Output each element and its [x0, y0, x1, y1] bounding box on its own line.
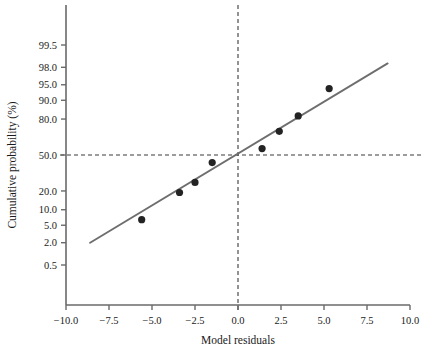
y-tick-label-7: 10.0: [39, 204, 57, 215]
y-axis-title: Cumulative probability (%): [6, 101, 19, 228]
x-tick-label-6: 5.0: [317, 315, 330, 326]
x-tick-label-2: −5.0: [142, 315, 161, 326]
data-point-5: [276, 128, 283, 135]
x-tick-label-8: 10.0: [401, 315, 419, 326]
data-point-4: [258, 145, 265, 152]
x-tick-label-4: 0.0: [231, 315, 244, 326]
x-tick-label-3: −2.5: [185, 315, 204, 326]
y-tick-label-8: 5.0: [44, 220, 57, 231]
chart-background: [0, 0, 426, 351]
y-tick-label-9: 2.0: [44, 237, 57, 248]
y-tick-label-3: 90.0: [39, 95, 57, 106]
data-point-2: [191, 179, 198, 186]
y-tick-label-10: 0.5: [44, 260, 57, 271]
x-axis-title: Model residuals: [201, 334, 275, 346]
chart-figure: 99.598.095.090.080.050.020.010.05.02.00.…: [0, 0, 426, 351]
y-tick-label-2: 95.0: [39, 79, 57, 90]
x-tick-label-0: −10.0: [54, 315, 78, 326]
y-tick-label-1: 98.0: [39, 62, 57, 73]
x-tick-label-5: 2.5: [274, 315, 287, 326]
normal-probability-plot: 99.598.095.090.080.050.020.010.05.02.00.…: [0, 0, 426, 351]
y-tick-label-5: 50.0: [39, 150, 57, 161]
y-tick-label-6: 20.0: [39, 186, 57, 197]
x-tick-label-7: 7.5: [360, 315, 373, 326]
data-point-3: [209, 159, 216, 166]
data-point-0: [138, 216, 145, 223]
data-point-7: [326, 85, 333, 92]
data-point-1: [176, 189, 183, 196]
y-tick-label-0: 99.5: [39, 40, 57, 51]
data-point-6: [295, 112, 302, 119]
y-tick-label-4: 80.0: [39, 114, 57, 125]
x-tick-label-1: −7.5: [99, 315, 118, 326]
